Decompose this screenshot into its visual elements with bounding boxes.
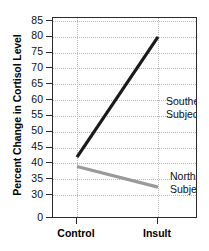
y-axis-tick-label: 65	[0, 78, 43, 89]
y-axis-tick-label: 70	[0, 62, 43, 73]
x-axis-tick-mark	[76, 218, 77, 224]
plot-area: Southern Subjects Northern Subjects	[52, 17, 197, 218]
southern-annotation-line2: Subjects	[166, 108, 197, 121]
y-axis-tick-label: 0	[0, 212, 43, 223]
y-axis-tick-label: 80	[0, 30, 43, 41]
y-axis-tick-label: 40	[0, 157, 43, 168]
southern-subjects-line	[77, 37, 158, 157]
southern-subjects-annotation: Southern Subjects	[166, 95, 197, 120]
northern-subjects-line	[77, 167, 158, 188]
x-axis-tick-mark	[157, 218, 158, 224]
x-axis-tick-label: Control	[36, 227, 116, 240]
y-axis-tick-label: 30	[0, 189, 43, 200]
y-axis-tick-label: 35	[0, 173, 43, 184]
y-axis-tick-label: 85	[0, 15, 43, 26]
x-axis-tick-label: Insult	[117, 227, 197, 240]
y-axis-tick-label: 45	[0, 141, 43, 152]
y-axis-tick-label: 75	[0, 46, 43, 57]
southern-annotation-line1: Southern	[166, 95, 197, 108]
northern-annotation-line2: Subjects	[170, 183, 197, 196]
chart-figure: Percent Change in Cortisol Level 8580757…	[0, 0, 209, 251]
y-axis-tick-label: 60	[0, 94, 43, 105]
northern-subjects-annotation: Northern Subjects	[170, 170, 197, 195]
y-axis-tick-label: 50	[0, 125, 43, 136]
y-axis-tick-label: 55	[0, 109, 43, 120]
northern-annotation-line1: Northern	[170, 170, 197, 183]
